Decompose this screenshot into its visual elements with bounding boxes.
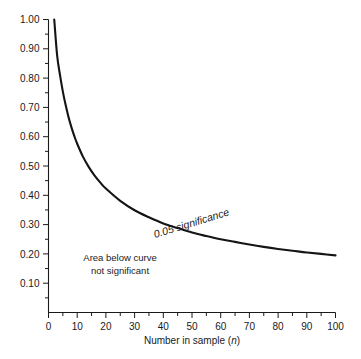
- x-tick-label: 50: [186, 321, 198, 332]
- y-tick-label: 0.20: [20, 249, 40, 260]
- y-tick-label: 0.80: [20, 73, 40, 84]
- x-axis-title-close: ): [237, 335, 240, 346]
- y-tick-label: 0.30: [20, 219, 40, 230]
- x-tick-label: 90: [301, 321, 313, 332]
- y-tick-label: 0.90: [20, 43, 40, 54]
- region-note-line2: not significant: [91, 265, 149, 276]
- x-tick-label: 20: [100, 321, 112, 332]
- y-tick-label: 0.10: [20, 278, 40, 289]
- x-axis-title-group: Number in sample (n): [144, 335, 240, 346]
- chart-background: [0, 0, 361, 359]
- x-tick-label: 80: [273, 321, 285, 332]
- y-tick-label: 0.70: [20, 102, 40, 113]
- y-tick-label: 0.50: [20, 161, 40, 172]
- x-axis-title-plain: Number in sample (: [144, 335, 232, 346]
- x-tick-label: 10: [72, 321, 84, 332]
- x-tick-label: 30: [129, 321, 141, 332]
- x-tick-label: 100: [327, 321, 344, 332]
- y-tick-label: 0.60: [20, 131, 40, 142]
- x-tick-label: 40: [158, 321, 170, 332]
- y-tick-label: 1.00: [20, 14, 40, 25]
- x-axis-title: Number in sample (n): [144, 335, 240, 346]
- x-tick-label: 60: [215, 321, 227, 332]
- x-tick-label: 0: [46, 321, 52, 332]
- y-tick-label: 0.40: [20, 190, 40, 201]
- significance-curve-chart: 0.100.200.300.400.500.600.700.800.901.00…: [0, 0, 361, 359]
- x-tick-label: 70: [244, 321, 256, 332]
- chart-container: 0.100.200.300.400.500.600.700.800.901.00…: [0, 0, 361, 359]
- region-note-line1: Area below curve: [83, 252, 156, 263]
